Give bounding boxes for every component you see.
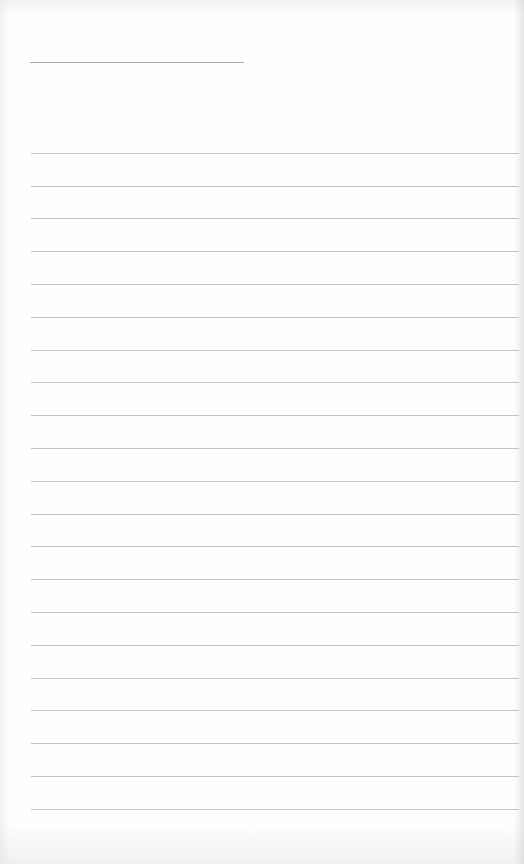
ruled-line: [31, 546, 519, 547]
ruled-line: [31, 415, 519, 416]
ruled-line: [31, 678, 519, 679]
ruled-line: [31, 251, 519, 252]
ruled-line: [31, 579, 519, 580]
ruled-line: [31, 153, 519, 154]
ruled-line: [31, 186, 519, 187]
ruled-line: [31, 710, 519, 711]
ruled-line: [31, 743, 519, 744]
header-title-rule: [30, 62, 244, 63]
scan-shading-left: [0, 0, 10, 864]
ruled-line: [31, 382, 519, 383]
lined-paper-page: [0, 0, 524, 864]
ruled-line: [31, 612, 519, 613]
scan-shading-top: [0, 0, 524, 14]
ruled-line: [31, 776, 519, 777]
ruled-line: [31, 350, 519, 351]
ruled-line: [31, 645, 519, 646]
ruled-line: [31, 317, 519, 318]
ruled-line: [31, 481, 519, 482]
ruled-line: [31, 809, 519, 810]
ruled-line: [31, 218, 519, 219]
ruled-line: [31, 448, 519, 449]
ruled-line: [31, 284, 519, 285]
scan-shading-right: [514, 0, 524, 864]
ruled-line: [31, 514, 519, 515]
scan-shading-bottom: [0, 824, 524, 864]
